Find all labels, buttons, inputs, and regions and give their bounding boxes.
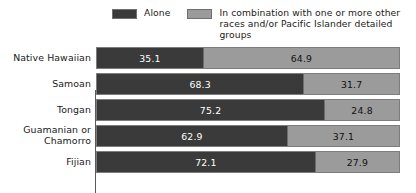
legend-entry-combination: In combination with one or more other ra… xyxy=(187,7,412,41)
bar-value-combination: 64.9 xyxy=(291,53,312,64)
legend-swatch-alone-icon xyxy=(112,9,137,19)
bar-segment-alone: 62.9 xyxy=(97,126,287,146)
bar-value-combination: 24.8 xyxy=(351,105,372,116)
bar-value-alone: 72.1 xyxy=(195,157,216,168)
legend-entry-alone: Alone xyxy=(112,7,170,19)
bar-segment-combination: 27.9 xyxy=(315,152,399,172)
category-label: Fijian xyxy=(0,157,91,168)
chart-row: Samoan 68.3 31.7 xyxy=(0,73,416,95)
bar-value-alone: 68.3 xyxy=(189,79,210,90)
category-label: Tongan xyxy=(0,105,91,116)
bar-value-alone: 62.9 xyxy=(181,131,202,142)
bar-segment-alone: 35.1 xyxy=(97,48,203,68)
chart-row: Guamanian or Chamorro 62.9 37.1 xyxy=(0,125,416,147)
bar-segment-alone: 68.3 xyxy=(97,74,303,94)
bar-value-combination: 31.7 xyxy=(341,79,362,90)
stacked-bar-chart: Alone In combination with one or more ot… xyxy=(0,0,416,193)
legend-label-alone: Alone xyxy=(144,7,170,18)
stacked-bar: 72.1 27.9 xyxy=(96,151,400,173)
chart-row: Native Hawaiian 35.1 64.9 xyxy=(0,47,416,69)
bar-value-alone: 35.1 xyxy=(139,53,160,64)
bar-segment-combination: 31.7 xyxy=(303,74,399,94)
bar-value-combination: 37.1 xyxy=(333,131,354,142)
chart-row: Tongan 75.2 24.8 xyxy=(0,99,416,121)
legend-swatch-combination-icon xyxy=(187,9,212,19)
bar-segment-combination: 64.9 xyxy=(203,48,399,68)
chart-legend: Alone In combination with one or more ot… xyxy=(112,7,412,41)
category-label: Samoan xyxy=(0,79,91,90)
stacked-bar: 62.9 37.1 xyxy=(96,125,400,147)
stacked-bar: 35.1 64.9 xyxy=(96,47,400,69)
bar-segment-alone: 75.2 xyxy=(97,100,324,120)
bar-value-combination: 27.9 xyxy=(347,157,368,168)
bar-segment-combination: 37.1 xyxy=(287,126,399,146)
bar-segment-combination: 24.8 xyxy=(324,100,399,120)
stacked-bar: 75.2 24.8 xyxy=(96,99,400,121)
category-label: Native Hawaiian xyxy=(0,53,91,64)
stacked-bar: 68.3 31.7 xyxy=(96,73,400,95)
bar-value-alone: 75.2 xyxy=(200,105,221,116)
plot-area: Native Hawaiian 35.1 64.9 Samoan 68.3 31… xyxy=(0,44,416,184)
legend-label-combination: In combination with one or more other ra… xyxy=(219,7,412,41)
bar-segment-alone: 72.1 xyxy=(97,152,315,172)
chart-row: Fijian 72.1 27.9 xyxy=(0,151,416,173)
category-label: Guamanian or Chamorro xyxy=(0,125,91,147)
